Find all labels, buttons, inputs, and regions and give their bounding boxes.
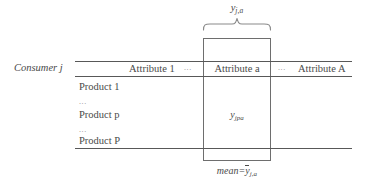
column-header-attribute-1: Attribute 1: [129, 64, 175, 75]
column-header-attribute-a: Attribute a: [203, 64, 271, 75]
bottom-annotation-mean: mean=yj,a: [198, 166, 276, 178]
highlighted-column-box: [203, 38, 271, 161]
bottom-annotation-prefix: mean=: [217, 165, 245, 176]
stub-header-consumer: Consumer j: [14, 63, 63, 74]
cell-value-subscript: jpa: [235, 114, 244, 122]
matrix-schematic-figure: yj,a Consumer j Attribute 1 ... Attribut…: [0, 0, 366, 187]
column-header-ellipsis-left: ...: [184, 64, 192, 72]
table-rule-bottom: [75, 148, 352, 149]
top-annotation-label: yj,a: [203, 3, 271, 15]
row-label-product-P: Product P: [79, 136, 120, 147]
table-rule-top: [75, 61, 352, 62]
row-label-product-1: Product 1: [79, 82, 120, 93]
column-header-ellipsis-right: ...: [278, 64, 286, 72]
row-ellipsis-upper: ...: [79, 98, 87, 106]
bottom-annotation-subscript: j,a: [250, 170, 258, 178]
table-rule-header: [75, 76, 352, 77]
column-header-attribute-A: Attribute A: [298, 64, 346, 75]
cell-value-yjpa: yjpa: [203, 110, 271, 122]
row-ellipsis-lower: ...: [79, 126, 87, 134]
row-label-product-p: Product p: [79, 110, 120, 121]
top-annotation-subscript: j,a: [235, 6, 243, 15]
curly-brace-icon: [201, 17, 273, 31]
bottom-annotation-base: y: [245, 166, 249, 176]
